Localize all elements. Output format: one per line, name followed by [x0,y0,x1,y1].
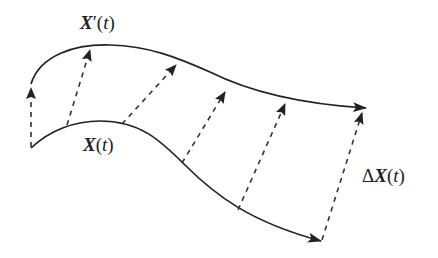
label-x-var: X [83,134,96,155]
paren-close: ) [108,12,114,33]
label-x-prime: X′(t) [80,13,115,32]
displacement-vector-2 [67,50,90,125]
diagram-svg [0,0,438,258]
curve-x [31,121,321,241]
displacement-vector-4 [182,92,225,163]
label-delta-x-var: X [374,165,387,186]
displacement-vector-5 [238,104,285,210]
paren-close: ) [107,134,113,155]
paren-close: ) [399,165,405,186]
displacement-vector-6 [322,113,362,240]
displacement-vectors [31,50,362,240]
diagram-canvas: X′(t) X(t) ΔX(t) [0,0,438,258]
label-delta-x: ΔX(t) [362,166,405,185]
label-x-prime-var: X [80,12,93,33]
displacement-vector-3 [122,65,176,124]
label-x: X(t) [83,135,114,154]
label-delta-symbol: Δ [362,165,374,186]
